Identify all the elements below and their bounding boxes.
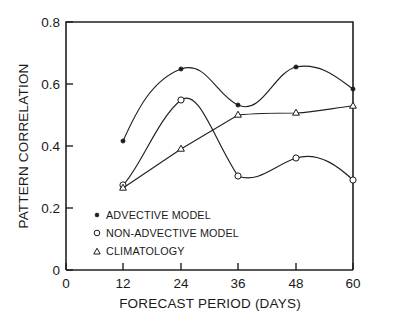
legend-label-non-advective-model: NON-ADVECTIVE MODEL: [106, 227, 239, 239]
non-advective-point-24: [178, 97, 184, 103]
advective-point-24: [179, 67, 183, 71]
x-tick-label-48: 48: [288, 276, 303, 291]
legend-label-advective-model: ADVECTIVE MODEL: [106, 209, 211, 221]
y-tick-label-0_2: 0.2: [41, 201, 60, 216]
y-tick-label-0_6: 0.6: [41, 77, 60, 92]
advective-point-36: [236, 103, 240, 107]
chart-background: [0, 0, 395, 329]
non-advective-point-60: [350, 177, 356, 183]
pattern-correlation-line-chart: 0 0.2 0.4 0.6 0.8 0 12 24 36 48 60 FOREC…: [0, 0, 395, 329]
non-advective-point-36: [235, 173, 241, 179]
legend-open-circle-icon: [94, 230, 100, 236]
advective-point-12: [121, 139, 125, 143]
legend-filled-circle-icon: [95, 213, 99, 217]
non-advective-point-48: [293, 155, 299, 161]
y-tick-label-0_8: 0.8: [41, 15, 60, 30]
y-axis-title: PATTERN CORRELATION: [16, 63, 31, 228]
x-axis-title: FORECAST PERIOD (DAYS): [119, 296, 301, 311]
x-tick-label-0: 0: [62, 276, 70, 291]
advective-point-48: [294, 65, 298, 69]
x-tick-label-12: 12: [115, 276, 130, 291]
y-tick-label-0: 0: [52, 263, 60, 278]
chart-figure: 0 0.2 0.4 0.6 0.8 0 12 24 36 48 60 FOREC…: [0, 0, 395, 329]
x-tick-label-36: 36: [230, 276, 245, 291]
x-tick-label-24: 24: [173, 276, 189, 291]
x-tick-label-60: 60: [345, 276, 360, 291]
y-tick-label-0_4: 0.4: [41, 139, 60, 154]
advective-point-60: [351, 87, 355, 91]
legend-label-climatology: CLIMATOLOGY: [106, 245, 185, 257]
